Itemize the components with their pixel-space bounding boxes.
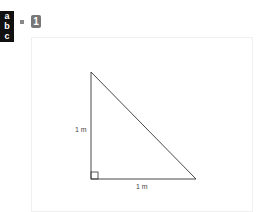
right-angle-marker xyxy=(91,172,98,179)
vertical-leg-label: 1 m xyxy=(75,126,87,133)
triangle-shape xyxy=(91,72,196,179)
triangle-diagram: 1 m 1 m xyxy=(0,0,261,212)
horizontal-leg-label: 1 m xyxy=(136,183,148,190)
